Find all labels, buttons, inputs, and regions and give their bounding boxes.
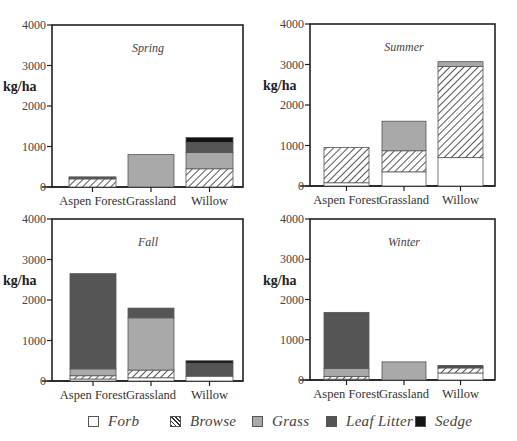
bar-segment-browse: [69, 179, 116, 187]
panel-fall: 01000200030004000kg/haFallAspen ForestGr…: [3, 212, 243, 402]
y-tick-label: 2000: [280, 98, 304, 112]
y-tick-label: 3000: [22, 59, 46, 73]
legend-label-browse: Browse: [190, 413, 236, 430]
bar-segment-grass: [70, 369, 116, 376]
panel-title: Winter: [388, 235, 420, 249]
legend-label-sedge: Sedge: [435, 413, 472, 430]
bar-segment-leaf-litter: [186, 142, 233, 152]
y-tick-label: 2000: [22, 293, 46, 307]
bar-segment-leaf-litter: [324, 312, 369, 368]
x-tick-label: Aspen Forest: [313, 387, 380, 401]
chart-canvas: 01000200030004000kg/haSpringAspen Forest…: [0, 0, 517, 441]
x-tick-label: Willow: [442, 193, 479, 207]
panel-winter: 01000200030004000kg/haWinterAspen Forest…: [263, 212, 495, 401]
chart-legend: Forb Browse Grass Leaf Litter Sedge: [0, 409, 517, 433]
legend-item-browse: Browse: [170, 409, 236, 433]
y-tick-label: 2000: [22, 99, 46, 113]
legend-item-forb: Forb: [88, 409, 139, 433]
x-tick-label: Grassland: [379, 193, 430, 207]
legend-label-leaf-litter: Leaf Litter: [346, 413, 413, 430]
bar-segment-browse: [438, 368, 483, 373]
y-tick-label: 2000: [280, 293, 304, 307]
panel-title: Fall: [137, 235, 159, 249]
y-tick-label: 4000: [22, 212, 46, 226]
bar-segment-leaf-litter: [186, 363, 233, 376]
leaf-litter-swatch-icon: [326, 416, 337, 427]
panel-title: Spring: [132, 41, 164, 55]
x-tick-label: Aspen Forest: [59, 194, 126, 208]
y-axis-label: kg/ha: [263, 78, 296, 93]
x-tick-label: Aspen Forest: [313, 193, 380, 207]
panel-title: Summer: [384, 40, 424, 54]
bar-segment-forb: [324, 183, 369, 186]
legend-label-grass: Grass: [272, 413, 309, 430]
bar-segment-browse: [324, 376, 369, 379]
bar-segment-sedge: [186, 361, 233, 363]
bar-segment-forb: [128, 378, 174, 381]
y-axis-label: kg/ha: [263, 273, 296, 288]
bar-segment-grass: [382, 121, 426, 151]
bar-segment-grass: [186, 153, 233, 169]
y-axis-label: kg/ha: [3, 273, 36, 288]
x-tick-label: Willow: [191, 388, 228, 402]
panel-summer: 01000200030004000kg/haSummerAspen Forest…: [263, 17, 495, 207]
legend-item-sedge: Sedge: [415, 409, 472, 433]
x-tick-label: Grassland: [126, 194, 177, 208]
bar-segment-browse: [70, 376, 116, 379]
y-tick-label: 1000: [22, 140, 46, 154]
grass-swatch-icon: [252, 416, 263, 427]
bar-segment-leaf-litter: [70, 274, 116, 369]
forb-swatch-icon: [88, 416, 99, 427]
bar-segment-leaf-litter: [69, 177, 116, 179]
bar-segment-browse: [128, 370, 174, 378]
x-tick-label: Grassland: [126, 388, 177, 402]
y-tick-label: 4000: [280, 212, 304, 226]
y-tick-label: 4000: [22, 18, 46, 32]
bar-segment-browse: [324, 148, 369, 183]
y-tick-label: 1000: [280, 139, 304, 153]
bar-segment-sedge: [438, 366, 483, 367]
legend-item-leaf-litter: Leaf Litter: [326, 409, 413, 433]
y-axis-label: kg/ha: [3, 79, 36, 94]
panel-spring: 01000200030004000kg/haSpringAspen Forest…: [3, 18, 243, 208]
x-tick-label: Aspen Forest: [60, 388, 127, 402]
x-tick-label: Willow: [191, 194, 228, 208]
y-tick-label: 3000: [22, 253, 46, 267]
browse-hatch-swatch-icon: [170, 416, 181, 427]
bar-segment-sedge: [186, 138, 233, 143]
bar-segment-leaf-litter: [128, 308, 174, 318]
y-tick-label: 4000: [280, 17, 304, 31]
bar-segment-browse: [186, 169, 233, 187]
bar-segment-grass: [324, 368, 369, 376]
legend-label-forb: Forb: [108, 413, 139, 430]
sedge-swatch-icon: [415, 416, 426, 427]
y-tick-label: 3000: [280, 58, 304, 72]
bar-segment-browse: [382, 151, 426, 172]
y-tick-label: 1000: [22, 334, 46, 348]
y-tick-label: 3000: [280, 252, 304, 266]
bar-segment-grass: [438, 62, 483, 67]
bar-segment-forb: [438, 373, 483, 380]
bar-segment-grass: [382, 362, 426, 380]
legend-item-grass: Grass: [252, 409, 309, 433]
x-tick-label: Grassland: [379, 387, 430, 401]
bar-segment-forb: [382, 172, 426, 186]
bar-segment-grass: [128, 155, 174, 187]
bar-segment-browse: [438, 67, 483, 158]
seasonal-biomass-figure: 01000200030004000kg/haSpringAspen Forest…: [0, 0, 517, 441]
x-tick-label: Willow: [442, 387, 479, 401]
bar-segment-forb: [438, 158, 483, 186]
bar-segment-forb: [186, 376, 233, 381]
y-tick-label: 1000: [280, 333, 304, 347]
bar-segment-grass: [128, 318, 174, 370]
